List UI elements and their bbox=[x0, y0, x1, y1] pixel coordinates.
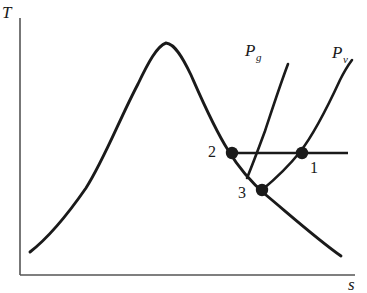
isobar-pv-label-base: P bbox=[332, 43, 342, 62]
isobar-pv-label: Pv bbox=[332, 44, 348, 65]
isobar-pv-curve bbox=[262, 60, 352, 190]
saturation-dome-curve bbox=[30, 43, 341, 256]
state-point-1-label: 1 bbox=[310, 160, 318, 176]
state-point-2-label: 2 bbox=[208, 144, 216, 160]
state-point-2-marker bbox=[226, 147, 238, 159]
x-axis-label: s bbox=[348, 276, 355, 293]
isobar-pg-label: Pg bbox=[245, 42, 261, 63]
y-axis-label: T bbox=[2, 4, 11, 21]
state-point-3-label: 3 bbox=[238, 185, 246, 201]
isobar-pg-curve bbox=[247, 64, 288, 178]
state-point-1-marker bbox=[296, 147, 308, 159]
state-point-3-marker bbox=[256, 184, 268, 196]
ts-diagram-figure: T s Pg Pv 2 1 3 bbox=[0, 0, 367, 293]
isobar-pg-label-subscript: g bbox=[256, 51, 262, 63]
isobar-pv-label-subscript: v bbox=[343, 53, 348, 65]
plot-canvas bbox=[0, 0, 367, 293]
isobar-pg-label-base: P bbox=[245, 41, 255, 60]
